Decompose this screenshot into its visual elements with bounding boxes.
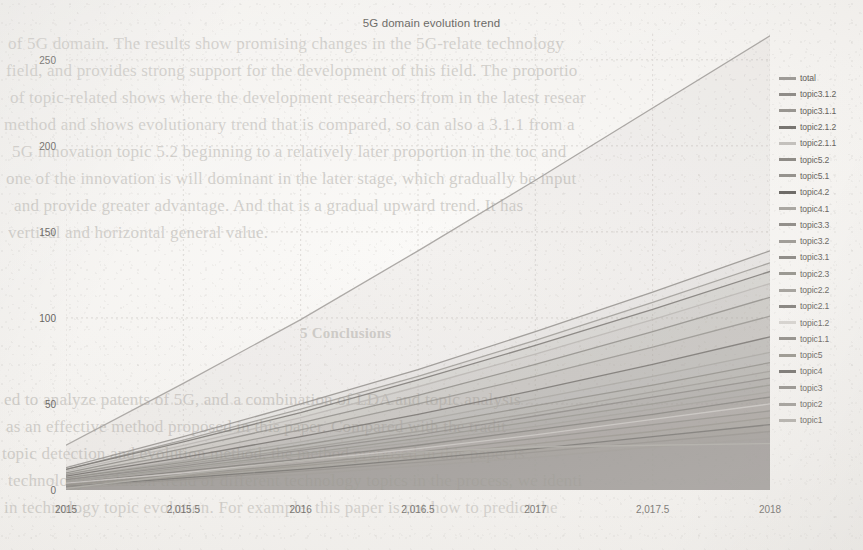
legend-swatch-icon: [779, 321, 796, 324]
legend-item-label: topic3.1: [800, 252, 829, 262]
series-lines-svg: [66, 34, 770, 490]
legend-swatch-icon: [779, 191, 796, 194]
legend-item-topic5[interactable]: topic5: [779, 347, 863, 363]
legend-item-label: topic1.1: [800, 334, 829, 344]
legend-item-label: topic2.1.1: [800, 138, 836, 148]
series-fills: [66, 36, 770, 490]
legend-swatch-icon: [779, 403, 796, 406]
legend-item-label: topic2.1: [800, 301, 829, 311]
legend-item-topic1[interactable]: topic1: [779, 412, 863, 428]
legend-swatch-icon: [779, 158, 796, 161]
legend-swatch-icon: [779, 174, 796, 177]
legend-item-label: topic5.2: [800, 155, 829, 165]
legend-item-topic2.1.2[interactable]: topic2.1.2: [779, 119, 863, 135]
legend-item-label: topic2.2: [800, 285, 829, 295]
legend-swatch-icon: [779, 223, 796, 226]
legend-swatch-icon: [779, 289, 796, 292]
legend-swatch-icon: [779, 240, 796, 243]
legend-item-label: topic5.1: [800, 171, 829, 181]
legend-item-topic4.2[interactable]: topic4.2: [779, 184, 863, 200]
legend-item-label: topic3.2: [800, 236, 829, 246]
legend-item-label: topic4: [800, 366, 822, 376]
legend-swatch-icon: [779, 77, 796, 80]
legend-swatch-icon: [779, 272, 796, 275]
legend-item-topic4.1[interactable]: topic4.1: [779, 200, 863, 216]
legend-item-label: total: [800, 73, 816, 83]
legend-swatch-icon: [779, 256, 796, 259]
legend-item-topic5.1[interactable]: topic5.1: [779, 168, 863, 184]
legend-item-label: topic2.1.2: [800, 122, 836, 132]
legend-item-topic2.3[interactable]: topic2.3: [779, 266, 863, 282]
legend-item-label: topic4.1: [800, 204, 829, 214]
legend-item-topic1.2[interactable]: topic1.2: [779, 314, 863, 330]
legend-swatch-icon: [779, 337, 796, 340]
legend-item-topic3.1.2[interactable]: topic3.1.2: [779, 86, 863, 102]
legend-swatch-icon: [779, 370, 796, 373]
legend-item-label: topic3.1.2: [800, 89, 836, 99]
legend-item-total[interactable]: total: [779, 70, 863, 86]
legend-item-label: topic1: [800, 415, 822, 425]
legend-item-topic2.2[interactable]: topic2.2: [779, 282, 863, 298]
chart-legend: totaltopic3.1.2topic3.1.1topic2.1.2topic…: [779, 70, 863, 429]
legend-item-topic3.1[interactable]: topic3.1: [779, 249, 863, 265]
legend-swatch-icon: [779, 419, 796, 422]
legend-item-topic5.2[interactable]: topic5.2: [779, 151, 863, 167]
legend-item-label: topic2: [800, 399, 822, 409]
x-tick-2015: 2015: [55, 504, 77, 515]
x-tick-2018: 2018: [759, 504, 781, 515]
legend-swatch-icon: [779, 93, 796, 96]
legend-swatch-icon: [779, 386, 796, 389]
evolution-trend-chart: 5G domain evolution trend 05010015020025…: [0, 0, 863, 550]
legend-item-label: topic2.3: [800, 269, 829, 279]
legend-item-topic2[interactable]: topic2: [779, 396, 863, 412]
legend-item-label: topic1.2: [800, 318, 829, 328]
x-tick-2016: 2016: [290, 504, 312, 515]
x-tick-2,015.5: 2,015.5: [167, 504, 200, 515]
legend-item-topic1.1[interactable]: topic1.1: [779, 331, 863, 347]
legend-item-topic3.3[interactable]: topic3.3: [779, 217, 863, 233]
legend-item-label: topic3.1.1: [800, 106, 836, 116]
legend-swatch-icon: [779, 354, 796, 357]
legend-item-label: topic3: [800, 383, 822, 393]
legend-item-topic3[interactable]: topic3: [779, 380, 863, 396]
legend-swatch-icon: [779, 142, 796, 145]
x-tick-2,017.5: 2,017.5: [636, 504, 669, 515]
legend-swatch-icon: [779, 305, 796, 308]
legend-item-label: topic5: [800, 350, 822, 360]
x-tick-2,016.5: 2,016.5: [401, 504, 434, 515]
legend-item-topic4[interactable]: topic4: [779, 363, 863, 379]
legend-swatch-icon: [779, 126, 796, 129]
legend-swatch-icon: [779, 109, 796, 112]
plot-area: [66, 34, 770, 490]
legend-item-label: topic4.2: [800, 187, 829, 197]
legend-item-topic2.1[interactable]: topic2.1: [779, 298, 863, 314]
x-tick-2017: 2017: [524, 504, 546, 515]
legend-item-topic2.1.1[interactable]: topic2.1.1: [779, 135, 863, 151]
legend-swatch-icon: [779, 207, 796, 210]
legend-item-label: topic3.3: [800, 220, 829, 230]
legend-item-topic3.1.1[interactable]: topic3.1.1: [779, 103, 863, 119]
legend-item-topic3.2[interactable]: topic3.2: [779, 233, 863, 249]
